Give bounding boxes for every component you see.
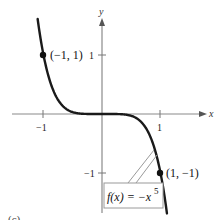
y-axis: y 1 −1 xyxy=(84,6,106,213)
point-label-neg1-1: (−1, 1) xyxy=(50,48,83,62)
panel-label: (c) xyxy=(8,213,21,220)
x-axis: x −1 1 xyxy=(12,108,214,133)
y-axis-arrow-icon xyxy=(99,18,105,26)
point-label-1-neg1: (1, −1) xyxy=(166,166,199,180)
chart-figure: x −1 1 y 1 −1 f(x) = −x 5 (−1, 1) (1, −1… xyxy=(0,0,215,220)
point-1-neg1: (1, −1) xyxy=(157,166,199,180)
point-neg1-1: (−1, 1) xyxy=(40,48,83,62)
x-axis-arrow-icon xyxy=(199,111,207,117)
x-tick-label-1: 1 xyxy=(157,122,162,133)
callout-leader-lines xyxy=(128,150,157,183)
function-label-box: f(x) = −x 5 xyxy=(104,183,163,208)
x-tick-label-neg1: −1 xyxy=(36,122,47,133)
y-tick-label-1: 1 xyxy=(89,50,94,61)
x-axis-label: x xyxy=(208,108,214,119)
y-tick-label-neg1: −1 xyxy=(84,168,95,179)
function-label: f(x) = −x xyxy=(107,190,152,204)
y-axis-label: y xyxy=(98,6,104,17)
function-label-exponent: 5 xyxy=(154,186,159,196)
